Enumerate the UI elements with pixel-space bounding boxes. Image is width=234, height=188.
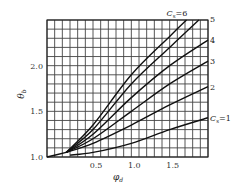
y-tick-label: 2.0 [30,62,43,71]
curve-label-cs-3: 3 [210,57,215,66]
curve-label-cs-4: 4 [210,36,215,45]
curve-cs-6 [66,20,186,152]
x-tick-label: 1.0 [128,161,141,170]
chart: 0.51.01.51.01.52.0 Cs=12345Cs=6 φd θb [0,0,234,188]
curves [47,20,208,157]
curve-shared-start [47,152,66,157]
y-axis-label: θb [16,89,27,98]
x-axis-label: φd [113,172,123,183]
x-tick-label: 0.5 [90,161,103,170]
curve-label-cs-6: Cs=6 [167,9,188,19]
curve-label-cs-5: 5 [210,15,215,24]
curve-label-cs-2: 2 [210,83,215,92]
x-tick-label: 1.5 [166,161,179,170]
y-tick-label: 1.5 [30,107,43,116]
y-tick-label: 1.0 [30,153,43,162]
curve-label-cs-1: Cs=1 [210,114,231,124]
